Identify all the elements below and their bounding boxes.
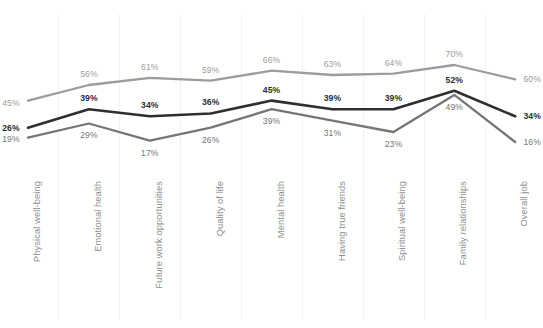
category-label: Future work opportunities: [154, 181, 164, 288]
data-label: 31%: [324, 128, 342, 138]
data-label: 16%: [523, 137, 541, 147]
category-label: Spiritual well-being: [397, 181, 407, 261]
data-label: 34%: [523, 111, 541, 121]
data-label: 39%: [263, 116, 281, 126]
data-label: 29%: [80, 130, 98, 140]
data-label: 61%: [141, 62, 159, 72]
data-label: 23%: [385, 139, 403, 149]
data-label: 63%: [324, 59, 342, 69]
data-label: 52%: [446, 75, 464, 85]
category-axis: Physical well-beingEmotional healthFutur…: [0, 175, 543, 328]
category-label: Physical well-being: [32, 181, 42, 262]
plot-area: 45%56%61%59%66%63%64%70%60% 26%39%34%36%…: [0, 0, 543, 175]
data-label: 36%: [202, 97, 220, 107]
data-label: 26%: [202, 135, 220, 145]
data-label: 39%: [385, 93, 403, 103]
category-label: Family relationships: [458, 181, 468, 265]
data-label: 70%: [446, 49, 464, 59]
category-label: Overall job: [519, 181, 529, 227]
data-label: 56%: [80, 69, 98, 79]
category-label: Mental health: [276, 181, 286, 238]
category-label: Emotional health: [93, 181, 103, 252]
data-label: 64%: [385, 58, 403, 68]
line-chart: 45%56%61%59%66%63%64%70%60% 26%39%34%36%…: [0, 0, 543, 328]
category-label: Having true friends: [337, 181, 347, 261]
data-label: 45%: [263, 85, 281, 95]
data-label: 39%: [80, 93, 98, 103]
data-label: 34%: [141, 100, 159, 110]
data-label: 26%: [2, 123, 20, 133]
data-label: 17%: [141, 148, 159, 158]
data-label: 59%: [202, 65, 220, 75]
data-label: 66%: [263, 55, 281, 65]
data-label: 60%: [523, 74, 541, 84]
category-label: Quality of life: [215, 181, 225, 236]
data-label: 19%: [2, 134, 20, 144]
data-label: 39%: [324, 93, 342, 103]
data-label: 49%: [446, 102, 464, 112]
data-label: 45%: [2, 98, 20, 108]
